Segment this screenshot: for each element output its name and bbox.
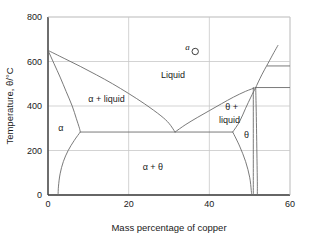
phase-diagram-svg: a 0204060 0200400600800 Liquidα + liquid…: [0, 0, 309, 237]
region-label-alpha-plus-theta: α + θ: [143, 162, 163, 172]
region-label-theta: θ: [244, 130, 249, 140]
region-label-alpha: α: [58, 123, 63, 133]
y-tick-label: 400: [27, 101, 42, 111]
y-axis-title: Temperature, θ/°C: [4, 67, 15, 144]
region-label-liquid: Liquid: [161, 70, 185, 80]
region-label-theta-plus-liquid-line1: θ +: [225, 102, 238, 112]
x-tick-label: 40: [204, 199, 214, 209]
y-tick-label: 200: [27, 146, 42, 156]
x-tick-label: 20: [124, 199, 134, 209]
point-a-label: a: [185, 42, 190, 52]
y-tick-label: 0: [37, 190, 42, 200]
x-tick-label: 60: [285, 199, 295, 209]
x-axis-title: Mass percentage of copper: [111, 222, 226, 233]
y-tick-label: 800: [27, 12, 42, 22]
region-label-alpha-plus-liquid: α + liquid: [88, 94, 124, 104]
phase-diagram-figure: a 0204060 0200400600800 Liquidα + liquid…: [0, 0, 309, 237]
y-tick-label: 600: [27, 57, 42, 67]
x-tick-label: 0: [45, 199, 50, 209]
region-label-theta-plus-liquid-line2: liquid: [219, 115, 240, 125]
